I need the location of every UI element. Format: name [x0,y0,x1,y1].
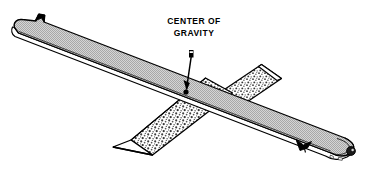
label-line-1: CENTER OF [167,16,221,26]
ruler-end-hole [347,147,356,156]
center-of-gravity-dot [183,89,188,94]
pointer-tail-flag-slot [190,51,193,53]
center-of-gravity-illustration: CENTER OF GRAVITY [0,0,381,182]
figure-container: CENTER OF GRAVITY [0,0,381,182]
label-line-2: GRAVITY [174,28,215,38]
ruler-end-highlight-b [338,157,342,160]
center-of-gravity-label: CENTER OF GRAVITY [167,16,221,38]
ruler-end-hole-highlight [351,149,354,152]
